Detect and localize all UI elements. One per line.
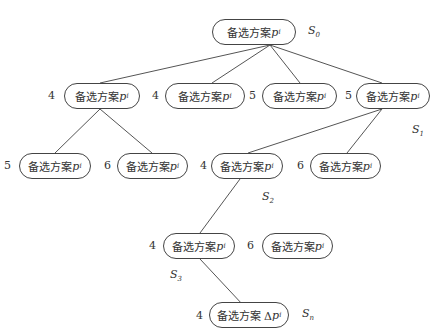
cost-label: 4 xyxy=(149,239,156,252)
root-node: 备选方案pi xyxy=(212,19,296,45)
tree-node: 备选方案pi xyxy=(117,153,188,179)
state-label-s2: S2 xyxy=(262,190,274,205)
cost-label: 5 xyxy=(249,89,256,102)
tree-node-delta: 备选方案 Δpi xyxy=(209,302,289,328)
cost-label: 6 xyxy=(104,159,111,172)
cost-label: 4 xyxy=(48,89,55,102)
tree-node: 备选方案pi xyxy=(163,233,235,259)
cost-label: 6 xyxy=(247,239,254,252)
tree-node: 备选方案pi xyxy=(165,83,245,109)
tree-node: 备选方案pi xyxy=(19,153,91,179)
state-label-s3: S3 xyxy=(170,268,182,283)
cost-label: 4 xyxy=(152,89,159,102)
tree-node: 备选方案pi xyxy=(64,83,140,109)
cost-label: 4 xyxy=(196,309,203,322)
state-label-s1: S1 xyxy=(412,123,424,138)
tree-node: 备选方案pi xyxy=(262,83,337,109)
tree-node: 备选方案pi xyxy=(211,153,283,179)
cost-label: 5 xyxy=(345,89,352,102)
state-label-s0: S0 xyxy=(308,24,320,39)
tree-node: 备选方案pi xyxy=(356,83,430,109)
state-label-sn: Sn xyxy=(302,307,314,322)
tree-node: 备选方案pi xyxy=(262,233,333,259)
cost-label: 4 xyxy=(200,159,207,172)
cost-label: 5 xyxy=(4,159,11,172)
tree-node: 备选方案pi xyxy=(310,153,381,179)
cost-label: 6 xyxy=(297,159,304,172)
